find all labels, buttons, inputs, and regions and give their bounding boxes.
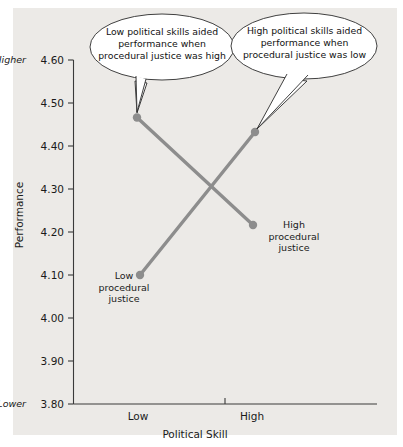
callout-low-skill-tail-outline [136,76,146,112]
data-point-low-skill-high-pj [133,113,141,121]
data-point-high-skill-low-pj [251,128,259,136]
label-low-pj-line-1: Low [88,270,160,282]
axis-lines [74,60,378,404]
x-axis-title: Political Skill [135,428,255,440]
callout-high-skill-text: High political skills aided performance … [239,25,370,61]
y-axis-title: Performance [13,170,25,260]
y-tick-label-430: 4.30 [30,183,64,195]
y-tick-label-440: 4.40 [30,140,64,152]
callout-low-skill-line-2: performance when [97,38,227,50]
chart-graphic [0,0,403,447]
series-label-high-procedural-justice: High procedural justice [258,219,330,254]
y-tick-label-450: 4.50 [30,97,64,109]
x-tick-label-high: High [222,410,282,422]
label-low-pj-line-2: procedural [88,282,160,294]
data-point-high-skill-high-pj [249,221,257,229]
figure-container: 4.60 4.50 4.40 4.30 4.20 4.10 4.00 3.90 … [0,0,403,447]
callout-low-skill-line-1: Low political skills aided [97,26,227,38]
y-tick-label-390: 3.90 [30,355,64,367]
series-low-procedural-justice [136,128,259,279]
y-axis-ticks [68,60,74,404]
callout-low-skill-text: Low political skills aided performance w… [97,26,227,62]
y-axis-higher-label: Higher [0,54,26,65]
series-label-low-procedural-justice: Low procedural justice [88,270,160,305]
y-tick-label-380: 3.80 [30,398,64,410]
y-tick-label-400: 4.00 [30,312,64,324]
series-high-procedural-justice [133,113,257,229]
callout-low-skill-line-3: procedural justice was high [97,50,227,62]
y-axis-lower-label: Lower [0,398,26,409]
y-tick-label-460: 4.60 [30,54,64,66]
label-high-pj-line-3: justice [258,242,330,254]
callout-high-skill-tail-outline [257,74,308,129]
y-tick-label-410: 4.10 [30,269,64,281]
callout-high-skill-line-1: High political skills aided [239,25,370,37]
series-line-ascending [140,132,255,275]
callout-high-skill-line-3: procedural justice was low [239,49,370,61]
label-high-pj-line-2: procedural [258,231,330,243]
x-tick-label-low: Low [108,410,168,422]
label-high-pj-line-1: High [258,219,330,231]
y-tick-label-420: 4.20 [30,226,64,238]
callout-high-skill-line-2: performance when [239,37,370,49]
label-low-pj-line-3: justice [88,293,160,305]
